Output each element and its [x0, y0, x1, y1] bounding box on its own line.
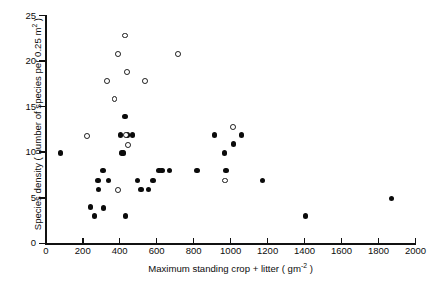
data-point-filled [101, 205, 106, 210]
data-point-open [104, 78, 110, 84]
data-point-open [115, 51, 121, 57]
data-point-filled [223, 168, 228, 173]
data-point-filled [194, 168, 199, 173]
data-point-filled [88, 204, 93, 209]
data-point-open [230, 124, 236, 130]
data-point-open [115, 187, 121, 193]
scatter-plot-figure: 0510152025 02004006008001000120014001600… [0, 0, 433, 290]
data-point-filled [135, 178, 140, 183]
data-point-open [112, 96, 118, 102]
data-point-filled [167, 168, 172, 173]
data-point-filled [260, 178, 265, 183]
y-axis-title-main: Species density ( number of species per … [32, 28, 43, 231]
y-axis-title: Species density ( number of species per … [31, 9, 43, 239]
data-point-filled [389, 196, 394, 201]
data-point-open [222, 178, 228, 184]
data-point-filled [138, 187, 143, 192]
data-point-open [142, 78, 148, 84]
y-axis-title-tail: ) [32, 18, 43, 24]
data-point-open [123, 132, 129, 138]
data-point-filled [212, 132, 217, 137]
data-point-filled [92, 213, 97, 218]
data-point-filled [231, 141, 236, 146]
data-point-filled [123, 213, 128, 218]
x-axis-title: Maximum standing crop + litter ( gm-2 ) [45, 262, 416, 274]
data-point-filled [239, 132, 244, 137]
data-point-filled [222, 150, 227, 155]
data-point-open [122, 33, 128, 39]
y-axis-title-exponent: 2 [31, 24, 38, 28]
data-point-filled [130, 132, 135, 137]
x-axis-title-main: Maximum standing crop + litter ( gm [148, 263, 301, 274]
data-point-filled [303, 213, 308, 218]
data-point-filled [150, 178, 155, 183]
data-point-open [125, 142, 131, 148]
data-point-filled [100, 168, 105, 173]
data-point-open [124, 69, 130, 75]
data-point-filled [121, 150, 126, 155]
x-axis-title-tail: ) [307, 263, 313, 274]
data-point-filled [95, 178, 100, 183]
data-point-filled [159, 168, 164, 173]
data-point-filled [146, 187, 151, 192]
data-point-open [84, 133, 90, 139]
data-point-filled [96, 187, 101, 192]
data-point-filled [106, 178, 111, 183]
data-point-filled [122, 114, 127, 119]
data-point-filled [58, 150, 63, 155]
data-point-open [175, 51, 181, 57]
data-markers-layer [0, 0, 433, 290]
